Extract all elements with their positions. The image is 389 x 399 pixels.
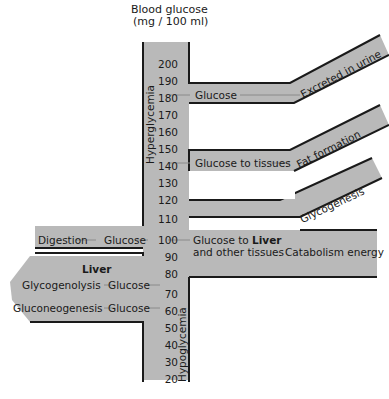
gluconeogenesis-label: Gluconeogenesis bbox=[13, 302, 103, 314]
liver-title: Liver bbox=[82, 263, 111, 275]
digestion-glucose-label: Glucose bbox=[104, 234, 146, 246]
digestion-label: Digestion bbox=[38, 234, 88, 246]
catabolism-label: Catabolism energy bbox=[285, 246, 384, 258]
tick-120: 120 bbox=[150, 194, 178, 206]
liver-outflow-line2: and other tissues bbox=[193, 246, 284, 258]
tick-80: 80 bbox=[150, 268, 178, 280]
tick-20: 20 bbox=[150, 373, 178, 385]
hyperglycemia-label: Hyperglycemia bbox=[144, 85, 156, 164]
glycogenolysis-label: Glycogenolysis bbox=[22, 279, 101, 291]
liver-outflow-bold: Liver bbox=[252, 234, 281, 246]
liver-outflow-line1: Glucose to Liver bbox=[193, 234, 282, 246]
tick-130: 130 bbox=[150, 177, 178, 189]
tick-110: 110 bbox=[150, 213, 178, 225]
liver-outflow-prefix: Glucose to bbox=[193, 234, 252, 246]
tick-100: 100 bbox=[150, 234, 178, 246]
axis-title-line2: (mg / 100 ml) bbox=[133, 16, 208, 28]
tick-200: 200 bbox=[150, 58, 178, 70]
tick-40: 40 bbox=[150, 339, 178, 351]
tick-60: 60 bbox=[150, 305, 178, 317]
hypoglycemia-label: Hypoglycemia bbox=[176, 307, 188, 382]
tick-70: 70 bbox=[150, 288, 178, 300]
tick-30: 30 bbox=[150, 356, 178, 368]
glycogenolysis-glucose-label: Glucose bbox=[108, 279, 150, 291]
gluconeogenesis-glucose-label: Glucose bbox=[108, 302, 150, 314]
fat-inflow-label: Glucose to tissues bbox=[195, 157, 291, 169]
tick-50: 50 bbox=[150, 322, 178, 334]
excreted-inflow-label: Glucose bbox=[195, 89, 237, 101]
tick-90: 90 bbox=[150, 251, 178, 263]
